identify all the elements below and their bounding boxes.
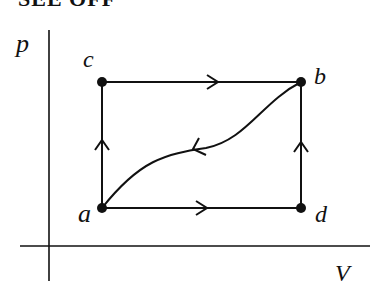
point-a — [97, 203, 107, 213]
label-a: a — [78, 199, 91, 228]
pv-diagram: p V c b a d — [0, 0, 370, 298]
label-p: p — [14, 29, 29, 58]
point-b — [296, 77, 306, 87]
label-v: V — [335, 260, 352, 286]
label-d: d — [315, 201, 328, 227]
point-c — [97, 77, 107, 87]
label-c: c — [83, 46, 94, 72]
path-b-a-curve — [102, 82, 301, 208]
point-d — [296, 203, 306, 213]
arrow-left-icon — [193, 138, 206, 155]
label-b: b — [314, 63, 326, 89]
